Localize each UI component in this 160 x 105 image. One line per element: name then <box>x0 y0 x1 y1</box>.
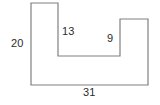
polygon-outline-svg <box>0 0 160 105</box>
geometry-figure: 20 13 9 31 <box>0 0 160 105</box>
dimension-label-left-height: 20 <box>11 37 24 49</box>
notched-rectangle-shape <box>31 3 148 85</box>
dimension-label-bottom-width: 31 <box>83 86 96 98</box>
dimension-label-inner-right-height: 9 <box>107 32 113 44</box>
dimension-label-inner-left-height: 13 <box>62 25 75 37</box>
